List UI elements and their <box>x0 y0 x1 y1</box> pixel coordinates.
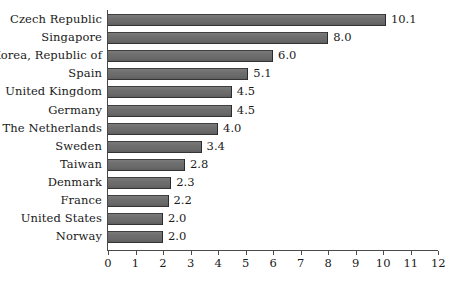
x-axis-tick <box>328 251 329 255</box>
x-axis-tick-label: 8 <box>316 256 340 270</box>
x-axis-tick <box>246 251 247 255</box>
x-axis-tick-label: 0 <box>96 256 120 270</box>
bar <box>108 177 171 189</box>
category-label: Korea, Republic of <box>0 49 102 61</box>
category-label: Sweden <box>0 140 102 152</box>
x-axis-tick-label: 12 <box>426 256 450 270</box>
category-label: United States <box>0 212 102 224</box>
bar <box>108 50 273 62</box>
x-axis-tick-label: 3 <box>179 256 203 270</box>
bar-value-label: 8.0 <box>333 31 351 43</box>
bar-value-label: 6.0 <box>278 49 296 61</box>
bar <box>108 86 232 98</box>
category-label: Denmark <box>0 176 102 188</box>
x-axis-tick <box>273 251 274 255</box>
bar <box>108 213 163 225</box>
bar <box>108 32 328 44</box>
x-axis-tick <box>108 251 109 255</box>
category-label: Germany <box>0 104 102 116</box>
category-label: United Kingdom <box>0 85 102 97</box>
x-axis-tick <box>411 251 412 255</box>
category-label: Czech Republic <box>0 13 102 25</box>
x-axis-tick-label: 9 <box>344 256 368 270</box>
bar <box>108 68 248 80</box>
x-axis-tick-label: 1 <box>124 256 148 270</box>
bar-value-label: 2.3 <box>176 176 194 188</box>
bar-value-label: 2.0 <box>168 230 186 242</box>
bar <box>108 105 232 117</box>
category-label: Norway <box>0 230 102 242</box>
bar <box>108 159 185 171</box>
x-axis-tick-label: 7 <box>289 256 313 270</box>
x-axis-tick <box>136 251 137 255</box>
category-label: The Netherlands <box>0 122 102 134</box>
x-axis-tick <box>438 251 439 255</box>
bar <box>108 123 218 135</box>
bar-value-label: 5.1 <box>253 67 271 79</box>
x-axis-tick-label: 4 <box>206 256 230 270</box>
bar-value-label: 2.2 <box>174 194 192 206</box>
bar-chart: Czech RepublicSingaporeKorea, Republic o… <box>0 0 454 288</box>
bar-value-label: 3.4 <box>207 140 225 152</box>
bar-value-label: 2.8 <box>190 158 208 170</box>
x-axis-tick <box>383 251 384 255</box>
x-axis-tick-label: 2 <box>151 256 175 270</box>
bar-value-label: 10.1 <box>391 13 417 25</box>
x-axis-tick <box>218 251 219 255</box>
bar <box>108 14 386 26</box>
x-axis-tick-label: 10 <box>371 256 395 270</box>
chart-page: Czech RepublicSingaporeKorea, Republic o… <box>0 0 454 288</box>
bar-value-label: 4.5 <box>237 104 255 116</box>
category-label: Singapore <box>0 31 102 43</box>
x-axis-tick <box>356 251 357 255</box>
bar <box>108 231 163 243</box>
bar-value-label: 4.0 <box>223 122 241 134</box>
bar-value-label: 4.5 <box>237 85 255 97</box>
x-axis-tick <box>163 251 164 255</box>
bar-value-label: 2.0 <box>168 212 186 224</box>
category-label: Spain <box>0 67 102 79</box>
bar <box>108 195 169 207</box>
x-axis-tick <box>191 251 192 255</box>
category-label: France <box>0 194 102 206</box>
x-axis-tick <box>301 251 302 255</box>
x-axis-tick-label: 11 <box>399 256 423 270</box>
bar <box>108 141 202 153</box>
x-axis-tick-label: 5 <box>234 256 258 270</box>
x-axis-tick-label: 6 <box>261 256 285 270</box>
category-label: Taiwan <box>0 158 102 170</box>
